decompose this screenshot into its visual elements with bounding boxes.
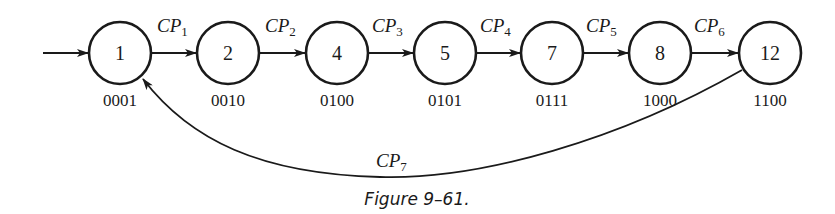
transition-2-4: CP2 (260, 15, 305, 53)
state-number: 8 (655, 42, 665, 64)
state-5: 5 0101 (414, 22, 476, 110)
state-number: 7 (547, 42, 557, 64)
state-12: 12 1100 (739, 22, 801, 110)
state-code: 1000 (643, 91, 677, 110)
state-2: 2 0010 (197, 22, 259, 110)
transition-label: CP5 (586, 15, 617, 39)
state-number: 12 (760, 42, 780, 64)
state-number: 1 (115, 42, 125, 64)
state-number: 4 (332, 42, 342, 64)
transition-12-1: CP7 (143, 70, 742, 177)
transition-label: CP1 (157, 15, 188, 39)
state-8: 8 1000 (629, 22, 691, 110)
transition-7-8: CP5 (584, 15, 628, 53)
state-number: 2 (223, 42, 233, 64)
transition-5-7: CP4 (477, 15, 520, 53)
state-code: 0111 (536, 91, 569, 110)
transition-8-12: CP6 (692, 15, 738, 53)
state-code: 0100 (320, 91, 354, 110)
state-number: 5 (440, 42, 450, 64)
figure-caption: Figure 9–61. (364, 189, 469, 209)
transition-4-5: CP3 (369, 15, 413, 53)
state-code: 1100 (753, 91, 786, 110)
state-code: 0010 (211, 91, 245, 110)
state-diagram: CP1 CP2 CP3 CP4 CP5 CP6 CP7 1 0001 2 001… (0, 0, 835, 214)
transition-label: CP7 (376, 150, 407, 174)
transition-label: CP2 (265, 15, 296, 39)
transition-label: CP6 (694, 15, 725, 39)
return-arrow-icon (143, 70, 742, 177)
transition-1-2: CP1 (152, 15, 196, 53)
state-1: 1 0001 (89, 22, 151, 110)
transition-label: CP4 (480, 15, 511, 39)
state-code: 0101 (428, 91, 462, 110)
transition-label: CP3 (372, 15, 403, 39)
state-4: 4 0100 (306, 22, 368, 110)
state-7: 7 0111 (521, 22, 583, 110)
state-code: 0001 (103, 91, 137, 110)
